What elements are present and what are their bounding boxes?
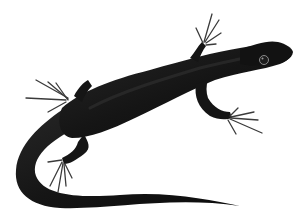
lizard-front-right-toes [228, 108, 262, 134]
lizard-hind-left-toes [26, 80, 68, 112]
lizard-hind-right-toes [48, 160, 72, 192]
image-canvas: Black-bodied lizard illustration on whit… [0, 0, 302, 224]
lizard-illustration [0, 0, 302, 224]
lizard-tail [16, 110, 240, 208]
lizard-front-left-toes [196, 14, 221, 45]
lizard-eye [260, 56, 269, 65]
lizard-hind-right-leg [62, 134, 89, 164]
lizard-eye-highlight [262, 58, 264, 60]
lizard-front-right-leg [196, 80, 232, 119]
